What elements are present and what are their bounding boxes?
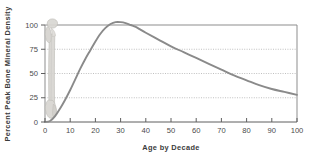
ytick-label-0: 0 [34,118,38,127]
xtick-label-90: 90 [268,126,276,135]
bone-shaft [49,34,55,104]
ytick-label-25: 25 [30,93,38,102]
ytick-label-100: 100 [25,21,38,30]
y-axis-tick-labels: 0 25 50 75 100 [25,21,38,127]
bone-head-ball [47,19,57,28]
y-axis-title: Percent Peak Bone Mineral Density [3,6,12,142]
xtick-label-80: 80 [242,126,250,135]
xtick-label-70: 70 [217,126,225,135]
xtick-label-30: 30 [116,126,124,135]
x-axis-title: Age by Decade [142,143,200,152]
xtick-label-100: 100 [291,126,304,135]
xtick-label-50: 50 [167,126,175,135]
xtick-label-60: 60 [192,126,200,135]
xtick-label-0: 0 [43,126,47,135]
xtick-label-40: 40 [142,126,150,135]
x-axis-tick-labels: 0102030405060708090100 [43,126,303,135]
xtick-label-10: 10 [66,126,74,135]
bone-density-chart-figure: 0 25 50 75 100 0102030405060708090100 Ag… [0,0,311,155]
y-axis-ticks [41,25,45,122]
xtick-label-20: 20 [91,126,99,135]
chart-canvas: 0 25 50 75 100 0102030405060708090100 Ag… [0,0,311,155]
ytick-label-75: 75 [30,45,38,54]
ytick-label-50: 50 [30,69,38,78]
